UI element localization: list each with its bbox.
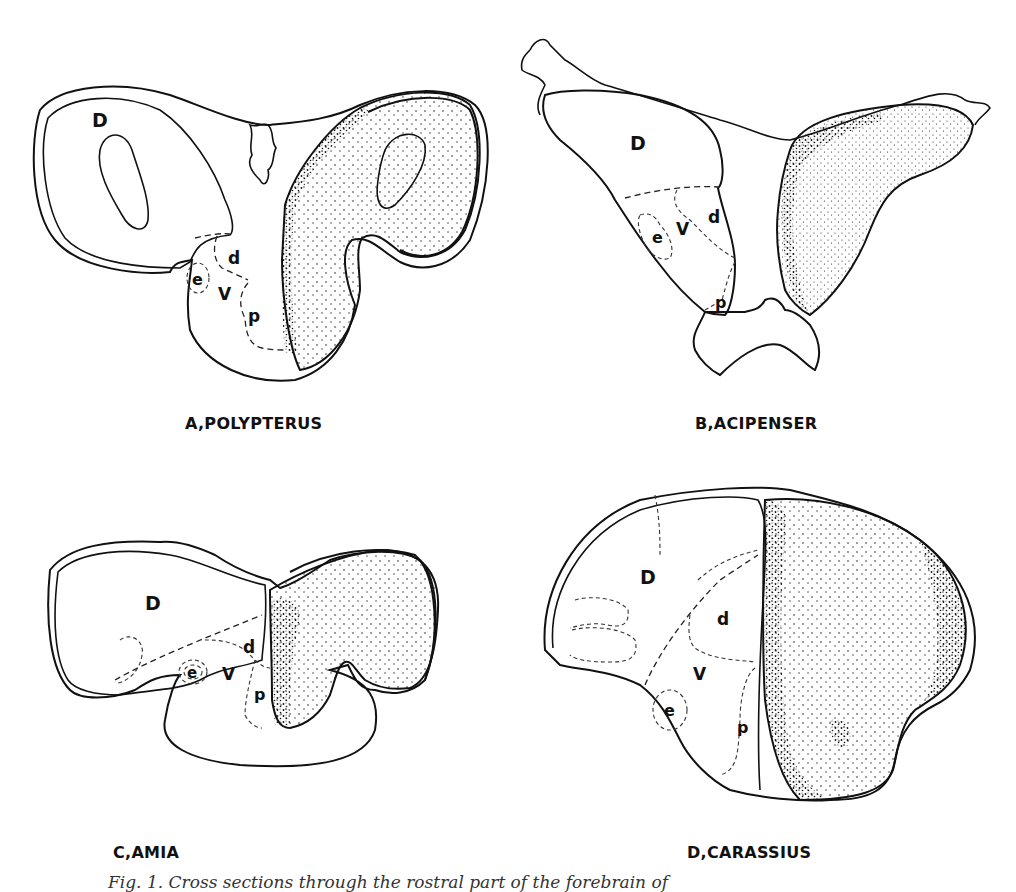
panel-b-label-d: d: [708, 207, 720, 227]
panel-d-drawing: [545, 488, 975, 801]
panel-d-label-d: d: [717, 609, 729, 629]
panel-b-label-e: e: [652, 228, 663, 247]
panel-c-title: C,AMIA: [113, 843, 179, 862]
figure-caption: Fig. 1. Cross sections through the rostr…: [108, 872, 668, 892]
panel-b-title: B,ACIPENSER: [695, 414, 817, 433]
panel-d-label-e: e: [664, 701, 675, 720]
panel-a-title: A,POLYPTERUS: [185, 414, 322, 433]
panel-b-label-p: p: [715, 293, 726, 312]
panel-a-label-V: V: [218, 284, 232, 304]
panel-c-label-D: D: [145, 592, 161, 614]
panel-b-drawing: [522, 40, 990, 375]
panel-a-label-e: e: [192, 270, 203, 289]
panel-b-label-V: V: [676, 219, 690, 239]
panel-c-label-e: e: [187, 664, 197, 682]
panel-d-label-V: V: [693, 664, 707, 684]
panel-a-label-D: D: [92, 109, 108, 131]
panel-a-label-d: d: [228, 248, 240, 268]
panel-d-title: D,CARASSIUS: [687, 843, 811, 862]
panel-c-label-V: V: [222, 664, 236, 684]
panel-d-label-p: p: [737, 718, 748, 737]
panel-a-label-p: p: [248, 306, 260, 326]
panel-b-label-D: D: [630, 132, 646, 154]
panel-c-label-p: p: [254, 685, 265, 704]
panel-d-label-D: D: [640, 566, 656, 588]
panel-c-label-d: d: [243, 637, 255, 657]
